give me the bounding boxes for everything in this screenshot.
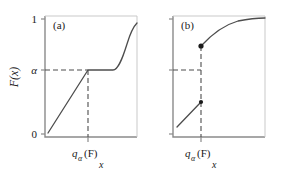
y-axis-label-text: F(x) (7, 67, 21, 89)
panel-b-frame-top-right (173, 16, 265, 137)
figure-container: (a) (b) 1 (0, 0, 286, 178)
panel-a-xlabel-of-f: (F) (84, 147, 98, 160)
panel-a: (a) (41, 16, 137, 142)
panel-b-x-axis-label: q α (F) x (185, 147, 217, 170)
panel-b-xlabel-of-f: (F) (197, 147, 211, 160)
ytick-label-0: 0 (32, 128, 38, 140)
panel-b-xlabel-x: x (211, 159, 217, 170)
ytick-label-1: 1 (32, 13, 38, 25)
panel-a-axis-frame (45, 16, 137, 137)
panel-b-cdf-upper-branch (201, 18, 265, 46)
figure-svg: (a) (b) 1 (0, 0, 286, 178)
panel-b: (b) (169, 16, 265, 142)
panel-a-xlabel-alpha-sub: α (78, 154, 83, 163)
panel-b-cdf-lower-branch (177, 102, 201, 127)
panel-a-xlabel-x: x (98, 159, 104, 170)
panel-b-xlabel-alpha-sub: α (191, 154, 196, 163)
y-axis-label: F(x) (7, 67, 21, 89)
panel-a-cdf-curve (48, 23, 137, 133)
panel-b-jump-lower-point (199, 100, 203, 104)
panel-a-frame-top-right (45, 16, 137, 137)
panel-b-tag: (b) (181, 19, 194, 32)
panel-a-tag: (a) (53, 19, 66, 32)
panel-b-axis-frame (173, 16, 265, 137)
ytick-label-alpha: α (31, 64, 37, 76)
panel-a-x-axis-label: q α (F) x (72, 147, 104, 170)
panel-b-jump-upper-point (198, 43, 203, 48)
